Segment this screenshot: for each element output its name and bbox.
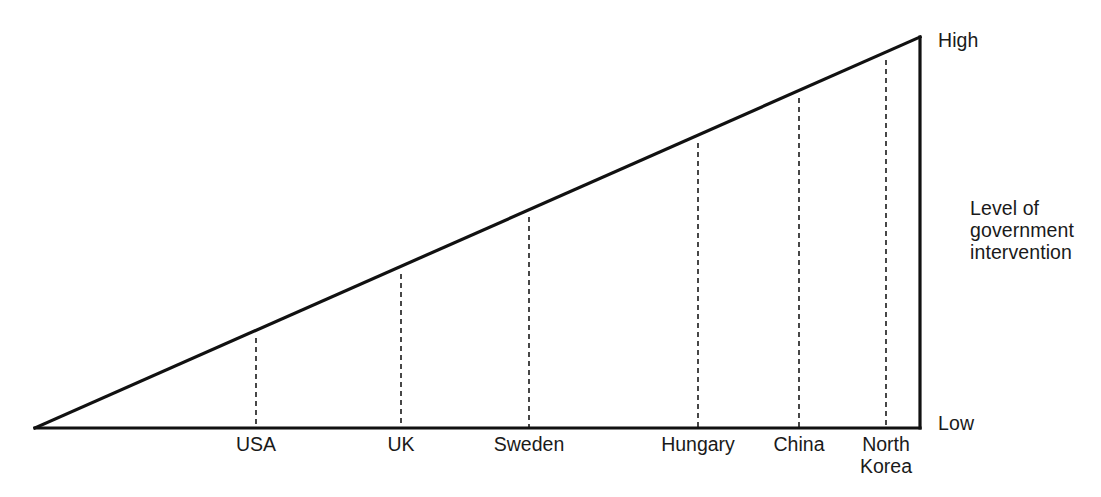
marker-dashed-lines — [256, 60, 886, 428]
chart-canvas — [0, 0, 1101, 497]
y-axis-title: Level ofgovernmentintervention — [970, 197, 1074, 263]
axis-label-high: High — [938, 29, 979, 51]
y-axis-title-line-1: Level of — [970, 197, 1039, 219]
category-label-north-korea: North Korea — [860, 433, 912, 477]
intervention-ramp-line — [35, 37, 920, 428]
government-intervention-chart: High Level ofgovernmentintervention Low … — [0, 0, 1101, 497]
category-label-china: China — [774, 433, 825, 455]
category-label-sweden: Sweden — [494, 433, 564, 455]
axis-label-low: Low — [938, 412, 974, 434]
y-axis-title-line-2: government — [970, 219, 1074, 241]
y-axis-title-line-3: intervention — [970, 241, 1072, 263]
triangle-outline — [35, 37, 920, 428]
category-label-usa: USA — [236, 433, 276, 455]
category-label-hungary: Hungary — [661, 433, 735, 455]
category-label-uk: UK — [387, 433, 414, 455]
